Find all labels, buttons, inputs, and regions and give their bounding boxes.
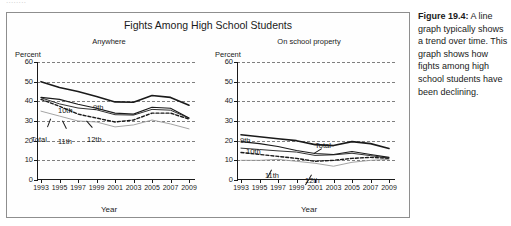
plot-area-school: 0102030405060199319951997199920012003200… [237, 62, 395, 180]
x-tick-label: 1993 [233, 184, 249, 191]
y-tick-label: 30 [225, 117, 233, 125]
panel-on-school-property: On school property Percent 0102030405060… [209, 37, 409, 215]
x-tick-label: 1995 [252, 184, 268, 191]
cropped-top-text: ........ [6, 0, 26, 5]
x-tick-label: 1999 [289, 184, 305, 191]
figure-box: Fights Among High School Students Anywhe… [6, 12, 410, 218]
series-layer [237, 62, 395, 180]
caption-text: A line graph typically shows a trend ove… [418, 11, 507, 97]
series-layer [37, 62, 195, 180]
x-tick-label: 1999 [89, 184, 105, 191]
y-tick-label: 0 [229, 176, 233, 184]
x-tick-label: 2003 [326, 184, 342, 191]
y-tick-mark [234, 180, 238, 181]
series-label-total-panel1: Total [315, 141, 331, 150]
x-axis-label-right: Year [209, 205, 409, 214]
y-tick-label: 10 [25, 157, 33, 165]
x-tick-label: 1997 [70, 184, 86, 191]
series-label-10th-panel0: 10th [58, 106, 73, 115]
series-line-12th [241, 159, 389, 166]
x-tick-label: 2001 [107, 184, 123, 191]
panel-anywhere: Anywhere Percent 01020304050601993199519… [9, 37, 209, 215]
series-label-total-panel0: Total [31, 135, 47, 144]
y-tick-label: 60 [25, 58, 33, 66]
y-tick-label: 40 [225, 98, 233, 106]
y-tick-label: 50 [25, 78, 33, 86]
x-tick-label: 2005 [344, 184, 360, 191]
series-label-11th-panel0: 11th [58, 137, 72, 146]
x-tick-label: 2009 [181, 184, 197, 191]
y-tick-label: 50 [225, 78, 233, 86]
x-tick-label: 2005 [144, 184, 160, 191]
y-tick-label: 40 [25, 98, 33, 106]
series-label-12th-panel0: 12th [87, 135, 102, 144]
x-axis-label-left: Year [9, 205, 209, 214]
series-label-10th-panel1: 10th [246, 147, 261, 156]
x-tick-label: 2007 [363, 184, 379, 191]
series-line-9th [41, 82, 189, 106]
figure-caption: Figure 19.4: A line graph typically show… [418, 10, 508, 98]
y-tick-label: 0 [29, 176, 33, 184]
series-label-9th-panel0: 9th [93, 103, 103, 112]
panel-subtitle-school: On school property [209, 37, 409, 46]
x-tick-label: 2009 [381, 184, 397, 191]
x-tick-label: 2001 [307, 184, 323, 191]
figure-page: ........ Fights Among High School Studen… [0, 0, 511, 226]
caption-label: Figure 19.4: [418, 11, 469, 21]
x-tick-label: 1993 [33, 184, 49, 191]
y-tick-label: 30 [25, 117, 33, 125]
chart-title: Fights Among High School Students [7, 19, 409, 31]
panel-subtitle-anywhere: Anywhere [9, 37, 209, 46]
y-tick-label: 60 [225, 58, 233, 66]
y-tick-label: 10 [225, 157, 233, 165]
x-tick-label: 1995 [52, 184, 68, 191]
x-tick-label: 2007 [163, 184, 179, 191]
y-tick-mark [34, 180, 38, 181]
x-tick-label: 2003 [126, 184, 142, 191]
x-tick-label: 1997 [270, 184, 286, 191]
y-tick-label: 20 [225, 137, 233, 145]
series-label-9th-panel1: 9th [240, 136, 250, 145]
plot-area-anywhere: 0102030405060199319951997199920012003200… [37, 62, 195, 180]
